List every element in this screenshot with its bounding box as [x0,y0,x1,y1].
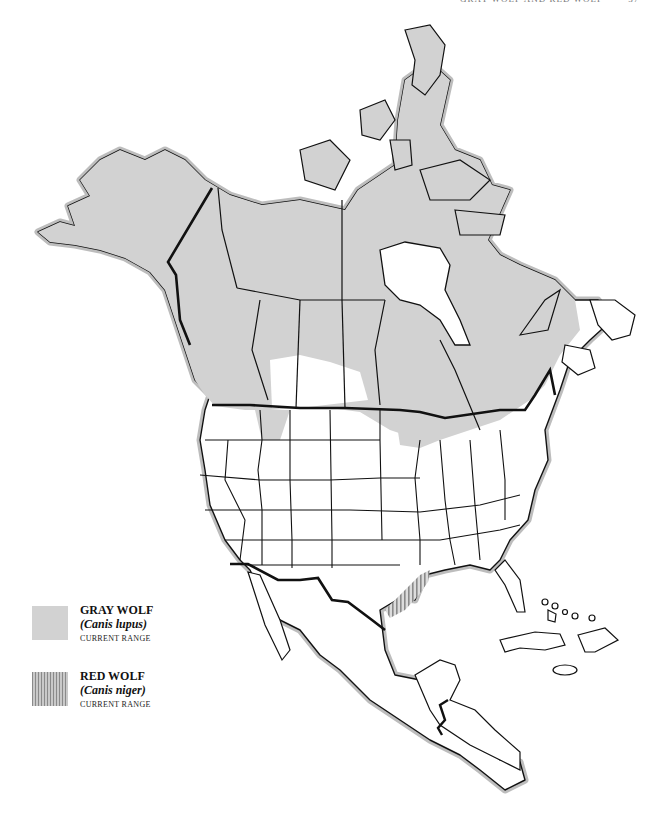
florida [495,560,525,612]
legend-subtitle: CURRENT RANGE [80,634,153,643]
legend: GRAY WOLF (Canis lupus) CURRENT RANGE RE… [30,604,210,736]
red-wolf-swatch [32,672,68,706]
legend-name: RED WOLF [80,670,151,684]
legend-item-gray-wolf: GRAY WOLF (Canis lupus) CURRENT RANGE [30,604,210,662]
gray-wolf-range-great-lakes [395,412,440,448]
legend-scientific-name: (Canis lupus) [80,618,153,632]
legend-name: GRAY WOLF [80,604,153,618]
gray-wolf-swatch [32,606,68,640]
legend-scientific-name: (Canis niger) [80,684,151,698]
legend-item-red-wolf: RED WOLF (Canis niger) CURRENT RANGE [30,670,210,728]
legend-subtitle: CURRENT RANGE [80,700,151,709]
